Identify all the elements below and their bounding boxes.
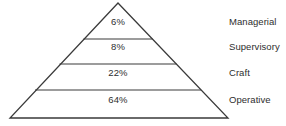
tier-label-supervisory: Supervisory [229, 42, 280, 52]
tier-percent-managerial: 6% [88, 17, 148, 27]
tier-percent-supervisory: 8% [88, 42, 148, 52]
tier-label-craft: Craft [229, 68, 250, 78]
tier-percent-operative: 64% [88, 95, 148, 105]
tier-percent-craft: 22% [88, 68, 148, 78]
pyramid-diagram: 6% 8% 22% 64% Managerial Supervisory Cra… [0, 0, 286, 126]
tier-label-managerial: Managerial [229, 17, 277, 27]
tier-label-operative: Operative [229, 95, 271, 105]
